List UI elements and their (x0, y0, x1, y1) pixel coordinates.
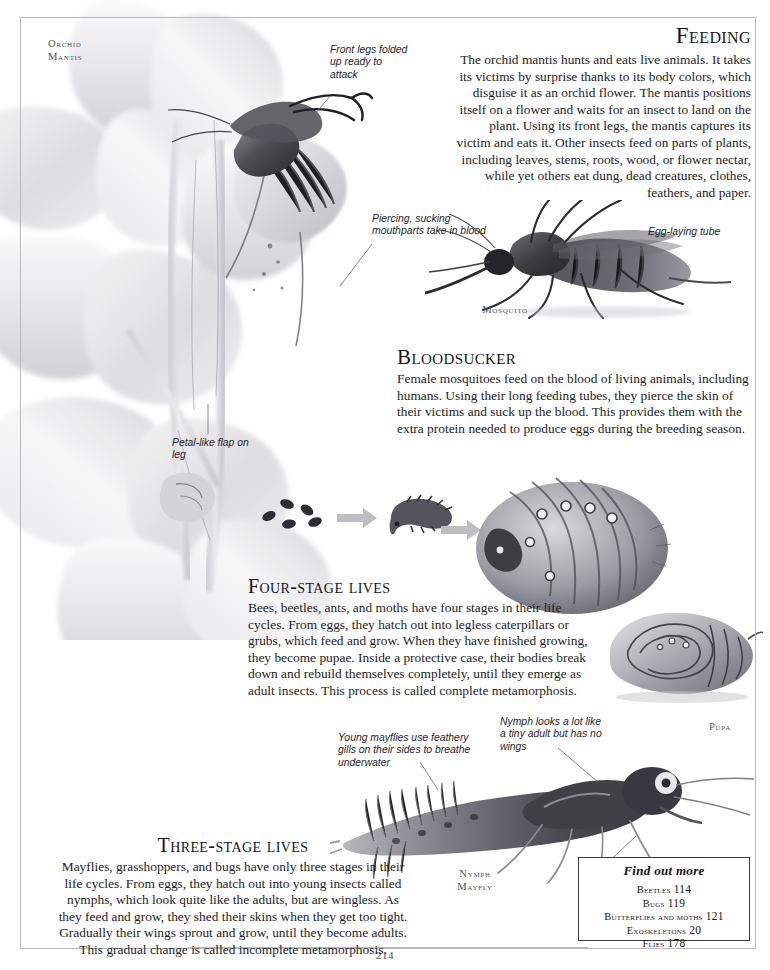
find-out-more-entry-label: Exoskeletons (627, 925, 686, 936)
section-three-stage-lives: Three-stage lives Mayflies, grasshoppers… (58, 833, 408, 959)
heading-feeding: Feeding (455, 22, 751, 50)
caption-nymph-line2: Mayfly (440, 881, 510, 894)
find-out-more-entry[interactable]: Butterflies and moths 121 (583, 910, 745, 924)
find-out-more-entry-page: 20 (686, 924, 701, 936)
caption-pupa: Pupa (690, 721, 750, 734)
body-four-stage-lives: Bees, beetles, ants, and moths have four… (248, 600, 588, 700)
caption-orchid-mantis-line2: Mantis (48, 51, 138, 64)
caption-orchid-mantis-line1: Orchid (48, 38, 138, 51)
body-feeding: The orchid mantis hunts and eats live an… (455, 52, 751, 201)
section-bloodsucker: Bloodsucker Female mosquitoes feed on th… (397, 344, 755, 437)
pupa-illustration (598, 605, 763, 705)
find-out-more-entry[interactable]: Beetles 114 (583, 883, 745, 897)
find-out-more-list: Beetles 114Bugs 119Butterflies and moths… (583, 883, 745, 951)
find-out-more-entry[interactable]: Exoskeletons 20 (583, 924, 745, 938)
find-out-more-entry-page: 114 (671, 883, 692, 895)
caption-nymph-line1: Nymph (440, 868, 510, 881)
annotation-piercing-mouthparts: Piercing, sucking mouthparts take in blo… (372, 213, 490, 238)
annotation-petal-like-flap: Petal-like flap on leg (172, 437, 256, 462)
annotation-front-legs: Front legs folded up ready to attack (330, 44, 408, 81)
annotation-young-mayflies: Young mayflies use feathery gills on the… (338, 732, 488, 769)
body-bloodsucker: Female mosquitoes feed on the blood of l… (397, 371, 755, 437)
find-out-more-box: Find out more Beetles 114Bugs 119Butterf… (578, 857, 750, 941)
heading-four-stage-lives: Four-stage lives (248, 574, 588, 599)
orchid-mantis-photo (0, 0, 402, 640)
find-out-more-entry[interactable]: Bugs 119 (583, 897, 745, 911)
caption-nymph-mayfly: Nymph Mayfly (440, 868, 510, 893)
annotation-nymph-looks: Nymph looks a lot like a tiny adult but … (500, 716, 608, 753)
find-out-more-entry-page: 119 (665, 897, 686, 909)
find-out-more-entry[interactable]: Flies 178 (583, 937, 745, 951)
heading-bloodsucker: Bloodsucker (397, 344, 755, 370)
caption-mosquito: Mosquito (455, 304, 555, 317)
section-feeding: Feeding The orchid mantis hunts and eats… (455, 22, 751, 201)
body-three-stage-lives: Mayflies, grasshoppers, and bugs have on… (58, 859, 408, 959)
section-four-stage-lives: Four-stage lives Bees, beetles, ants, an… (248, 574, 588, 700)
find-out-more-title: Find out more (583, 863, 745, 879)
find-out-more-entry-label: Flies (643, 938, 665, 949)
caption-orchid-mantis: Orchid Mantis (48, 38, 138, 63)
heading-three-stage-lives: Three-stage lives (58, 833, 408, 858)
annotation-egg-laying-tube: Egg-laying tube (648, 226, 726, 238)
life-cycle-sequence (245, 480, 545, 570)
find-out-more-entry-label: Beetles (637, 884, 671, 895)
find-out-more-entry-label: Butterflies and moths (604, 911, 702, 922)
find-out-more-entry-label: Bugs (643, 898, 665, 909)
encyclopedia-page: 214 Orchid Mantis Mosquito Pupa Nymph Ma… (0, 0, 770, 970)
find-out-more-entry-page: 178 (664, 937, 685, 949)
find-out-more-entry-page: 121 (703, 910, 724, 922)
